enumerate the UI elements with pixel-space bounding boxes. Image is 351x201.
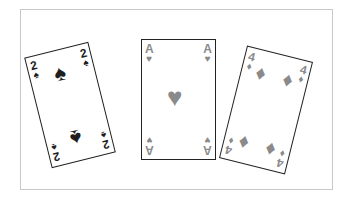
corner-index-bottom-left: A ♥ [145, 135, 154, 156]
heart-icon: ♥ [167, 84, 182, 110]
corner-index-top-left: 4 ♦ [245, 50, 257, 72]
heart-icon: ♥ [205, 54, 211, 64]
card-ace-of-hearts[interactable]: A ♥ A ♥ A ♥ A ♥ ♥ [141, 39, 216, 160]
heart-icon: ♥ [205, 135, 211, 145]
spade-icon: ♠ [50, 142, 58, 153]
diamond-icon: ♦ [227, 135, 234, 146]
heart-icon: ♥ [146, 135, 152, 145]
diamond-icon: ♦ [279, 148, 286, 159]
corner-index-top-left: A ♥ [145, 43, 154, 64]
diamond-icon: ♦ [237, 130, 252, 152]
diamond-icon: ♦ [254, 62, 269, 84]
corner-index-top-right: 4 ♦ [297, 63, 309, 85]
heart-icon: ♥ [146, 54, 152, 64]
spade-icon: ♠ [68, 125, 85, 149]
corner-index-bottom-left: 4 ♦ [224, 135, 236, 157]
corner-index-top-right: A ♥ [203, 43, 212, 64]
diamond-icon: ♦ [281, 68, 296, 90]
corner-index-bottom-left: 2 ♠ [50, 141, 62, 163]
diamond-icon: ♦ [264, 136, 279, 158]
corner-index-bottom-right: A ♥ [203, 135, 212, 156]
spade-icon: ♠ [100, 129, 108, 140]
diamond-icon: ♦ [297, 74, 304, 85]
corner-index-top-right: 2 ♠ [79, 47, 91, 69]
diamond-icon: ♦ [246, 61, 253, 72]
corner-index-bottom-right: 4 ♦ [276, 148, 288, 170]
corner-index-bottom-right: 2 ♠ [99, 129, 111, 151]
spade-icon: ♠ [52, 61, 69, 85]
corner-index-top-left: 2 ♠ [29, 59, 41, 81]
